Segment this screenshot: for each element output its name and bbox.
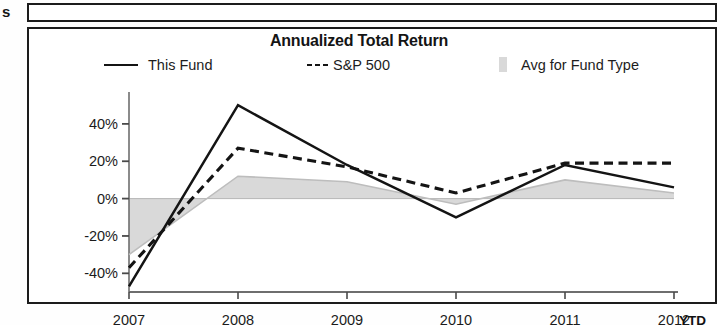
legend-label-this-fund: This Fund: [148, 54, 212, 76]
page-bottom-rule: [27, 302, 717, 304]
x-tick-label: 2009: [312, 312, 382, 325]
x-tick-label: 2007: [94, 312, 164, 325]
chart-panel: Annualized Total Return This Fund S&P 50…: [27, 27, 717, 304]
series-line-sp500: [129, 148, 674, 268]
plot-svg: [29, 84, 719, 304]
y-tick-label: -20%: [62, 229, 118, 243]
chart-legend: This Fund S&P 500 Avg for Fund Type: [29, 54, 719, 76]
plot-area: 40%20%0%-20%-40% 20072008200920102011201…: [29, 84, 719, 304]
y-tick-label: 0%: [62, 192, 118, 206]
cropped-panel-above: [27, 3, 717, 22]
dashed-line-icon: [307, 54, 329, 76]
y-tick-label: -40%: [62, 266, 118, 280]
series-area-avg-fund-type: [129, 176, 674, 254]
legend-label-avg-fund-type: Avg for Fund Type: [521, 54, 639, 76]
x-tick-label: 2011: [530, 312, 600, 325]
ytd-annotation: YTD: [679, 313, 706, 325]
cropped-text-fragment: s: [2, 2, 20, 22]
legend-label-sp500: S&P 500: [333, 54, 390, 76]
chart-title: Annualized Total Return: [29, 32, 689, 50]
y-tick-label: 40%: [62, 117, 118, 131]
solid-line-icon: [104, 54, 138, 76]
y-tick-label: 20%: [62, 154, 118, 168]
x-tick-label: 2008: [203, 312, 273, 325]
x-tick-label: 2010: [421, 312, 491, 325]
gray-area-swatch-icon: [497, 54, 509, 76]
